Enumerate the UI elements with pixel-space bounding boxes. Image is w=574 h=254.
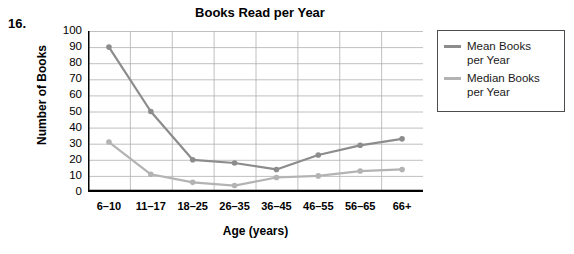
y-tick-label: 30 (48, 138, 82, 149)
data-point (232, 160, 238, 166)
data-point (399, 167, 405, 173)
question-number: 16. (8, 16, 26, 31)
legend-swatch-mean (444, 45, 461, 48)
y-tick-label: 90 (48, 41, 82, 52)
y-tick-label: 50 (48, 106, 82, 117)
y-tick-label: 10 (48, 170, 82, 181)
data-point (357, 143, 363, 149)
x-axis-label: Age (years) (88, 224, 423, 238)
series-line-mean (109, 47, 402, 169)
data-point (274, 175, 280, 181)
legend-label-mean: Mean Booksper Year (467, 39, 531, 67)
plot-area (88, 31, 423, 192)
data-point (357, 168, 363, 174)
chart-legend: Mean Booksper Year Median Booksper Year (437, 30, 565, 112)
series-line-median (109, 142, 402, 185)
data-point (316, 173, 322, 179)
y-tick-label: 60 (48, 89, 82, 100)
legend-swatch-median (444, 77, 461, 80)
y-tick-label: 100 (48, 25, 82, 36)
legend-label-median: Median Booksper Year (467, 71, 540, 99)
chart-figure: 16. Books Read per Year Number of Books … (0, 0, 574, 254)
data-point (106, 139, 112, 145)
y-tick-label: 40 (48, 122, 82, 133)
data-point (232, 183, 238, 189)
y-tick-label: 20 (48, 154, 82, 165)
data-point (106, 44, 112, 50)
y-tick-label: 70 (48, 73, 82, 84)
data-point (190, 157, 196, 163)
y-tick-label: 0 (48, 186, 82, 197)
data-point (190, 180, 196, 186)
data-point (148, 109, 154, 115)
chart-canvas (88, 31, 423, 192)
legend-item-mean: Mean Booksper Year (444, 39, 531, 67)
data-point (399, 136, 405, 142)
x-tick-label: 66+ (374, 200, 430, 212)
legend-item-median: Median Booksper Year (444, 71, 540, 99)
data-point (148, 171, 154, 177)
data-point (274, 167, 280, 173)
data-point (316, 152, 322, 158)
y-axis-label: Number of Books (35, 15, 49, 175)
y-tick-label: 80 (48, 57, 82, 68)
chart-title: Books Read per Year (100, 5, 420, 20)
